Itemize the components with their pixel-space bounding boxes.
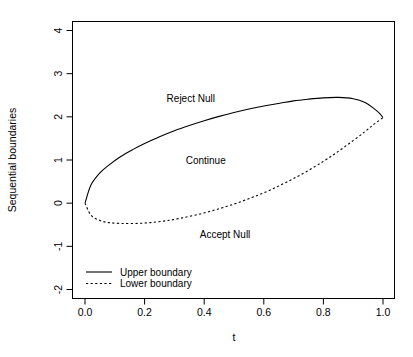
y-tick-label: 0 [52, 200, 64, 206]
lower-boundary-curve [85, 118, 383, 224]
y-tick-label: 2 [52, 114, 64, 120]
x-tick-label: 0.8 [316, 306, 331, 318]
upper-boundary-curve [85, 97, 383, 203]
x-axis-tick-labels: 0.00.20.40.60.81.0 [78, 306, 391, 318]
x-axis-ticks [85, 299, 383, 305]
legend-label-lower-boundary: Lower boundary [120, 278, 192, 289]
annotation-continue: Continue [186, 155, 226, 166]
chart-container: 0.00.20.40.60.81.0 43210-1-2 t Sequentia… [0, 0, 413, 357]
y-axis-ticks [67, 31, 73, 290]
legend-label-upper-boundary: Upper boundary [120, 267, 192, 278]
x-tick-label: 0.4 [197, 306, 212, 318]
y-tick-label: -2 [52, 285, 64, 294]
y-tick-label: 3 [52, 71, 64, 77]
sequential-boundaries-plot: 0.00.20.40.60.81.0 43210-1-2 t Sequentia… [0, 0, 413, 357]
y-tick-label: -1 [52, 242, 64, 251]
y-tick-label: 4 [52, 27, 64, 33]
chart-legend: Upper boundary Lower boundary [86, 267, 192, 290]
annotation-accept-null: Accept Null [200, 229, 251, 240]
x-tick-label: 0.0 [78, 306, 93, 318]
y-axis-title: Sequential boundaries [6, 108, 18, 213]
x-axis-title: t [233, 331, 236, 343]
annotation-reject-null: Reject Null [167, 93, 215, 104]
y-axis-tick-labels: 43210-1-2 [52, 27, 64, 294]
plot-frame [73, 22, 395, 299]
region-annotations: Reject NullContinueAccept Null [167, 93, 251, 240]
x-tick-label: 0.2 [137, 306, 152, 318]
y-tick-label: 1 [52, 157, 64, 163]
x-tick-label: 0.6 [256, 306, 271, 318]
x-tick-label: 1.0 [376, 306, 391, 318]
